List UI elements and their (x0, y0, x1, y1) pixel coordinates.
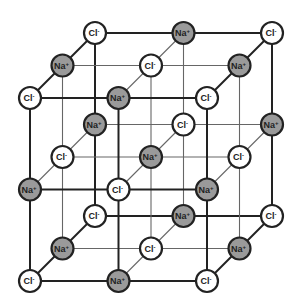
sodium-ion: Na+ (52, 55, 74, 77)
chloride-ion: Cl- (84, 205, 106, 227)
chloride-ion: Cl- (84, 22, 106, 44)
chloride-ion: Cl- (196, 270, 218, 292)
chloride-ion: Cl- (140, 55, 162, 77)
sodium-ion: Na+ (229, 238, 251, 260)
nacl-lattice-diagram: Cl-Na+Cl-Na+Cl-Na+Cl-Na+Cl-Na+Cl-Na+Cl-N… (0, 0, 303, 307)
chloride-ion: Cl- (196, 87, 218, 109)
sodium-ion: Na+ (173, 205, 195, 227)
chloride-ion: Cl- (19, 270, 41, 292)
ion-nodes: Cl-Na+Cl-Na+Cl-Na+Cl-Na+Cl-Na+Cl-Na+Cl-N… (19, 22, 283, 292)
sodium-ion: Na+ (19, 179, 41, 201)
chloride-ion: Cl- (261, 205, 283, 227)
chloride-ion: Cl- (52, 146, 74, 168)
sodium-ion: Na+ (140, 146, 162, 168)
sodium-ion: Na+ (261, 114, 283, 136)
sodium-ion: Na+ (196, 179, 218, 201)
chloride-ion: Cl- (140, 238, 162, 260)
sodium-ion: Na+ (108, 270, 130, 292)
chloride-ion: Cl- (108, 179, 130, 201)
lattice-svg: Cl-Na+Cl-Na+Cl-Na+Cl-Na+Cl-Na+Cl-Na+Cl-N… (0, 0, 303, 307)
sodium-ion: Na+ (108, 87, 130, 109)
sodium-ion: Na+ (84, 114, 106, 136)
sodium-ion: Na+ (173, 22, 195, 44)
sodium-ion: Na+ (229, 55, 251, 77)
chloride-ion: Cl- (229, 146, 251, 168)
chloride-ion: Cl- (19, 87, 41, 109)
chloride-ion: Cl- (261, 22, 283, 44)
chloride-ion: Cl- (173, 114, 195, 136)
sodium-ion: Na+ (52, 238, 74, 260)
